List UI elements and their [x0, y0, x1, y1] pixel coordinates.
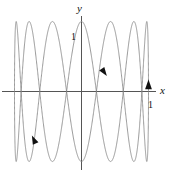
x-axis-label: x — [160, 85, 165, 96]
plot-canvas — [0, 0, 172, 173]
y-axis-label: y — [77, 3, 82, 14]
lissajous-figure: y x 1 1 — [0, 0, 172, 173]
direction-arrow-right-icon — [145, 80, 152, 90]
x-tick-label-1: 1 — [148, 100, 153, 110]
direction-arrow-lower-left-icon — [29, 134, 38, 145]
direction-arrow-middle-icon — [99, 67, 109, 78]
y-tick-label-1: 1 — [71, 32, 76, 42]
